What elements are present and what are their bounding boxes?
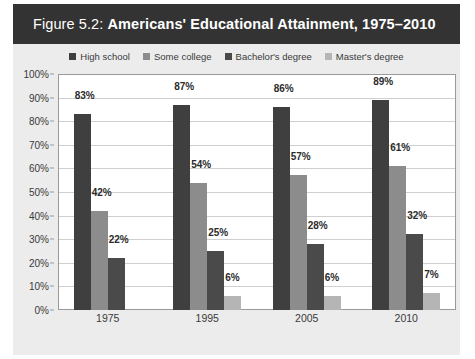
legend-item[interactable]: Bachelor's degree <box>225 51 312 62</box>
bar[interactable] <box>324 296 341 310</box>
y-axis-tick-mark <box>50 168 54 169</box>
figure-title-bar: Figure 5.2: Americans' Educational Attai… <box>13 4 460 44</box>
bar-slot: 54% <box>190 74 207 310</box>
legend-item[interactable]: Some college <box>143 51 212 62</box>
bar[interactable] <box>207 251 224 310</box>
bar-slot: 61% <box>389 74 406 310</box>
bar-group-bars: 86%57%28%6% <box>273 74 341 310</box>
bar-slot: 87% <box>173 74 190 310</box>
legend-label: High school <box>80 51 130 62</box>
legend-item[interactable]: High school <box>69 51 130 62</box>
y-axis-tick-mark <box>50 144 54 145</box>
bar-group-bars: 87%54%25%6% <box>173 74 241 310</box>
bar-groups: 83%42%22%87%54%25%6%86%57%28%6%89%61%32%… <box>58 74 456 310</box>
y-axis-tick-label: 20% <box>29 257 49 268</box>
bar[interactable] <box>273 107 290 310</box>
bar-group: 89%61%32%7% <box>372 74 440 310</box>
y-axis-tick-label: 70% <box>29 139 49 150</box>
x-axis-tick-label: 1975 <box>96 312 119 324</box>
y-axis-tick-mark <box>50 97 54 98</box>
y-axis: 0%10%20%30%40%50%60%70%80%90%100% <box>13 74 54 310</box>
legend-label: Some college <box>154 51 212 62</box>
bar-value-label: 6% <box>225 272 239 284</box>
bar-slot: 57% <box>290 74 307 310</box>
bar[interactable] <box>389 166 406 310</box>
y-axis-tick-label: 10% <box>29 281 49 292</box>
y-axis-tick-label: 80% <box>29 116 49 127</box>
bar-slot: 86% <box>273 74 290 310</box>
legend-swatch-icon <box>69 53 76 60</box>
bar[interactable] <box>290 175 307 310</box>
figure-container: Figure 5.2: Americans' Educational Attai… <box>0 0 475 359</box>
bar-group-bars: 83%42%22% <box>74 74 142 310</box>
bar[interactable] <box>307 244 324 310</box>
bar[interactable] <box>74 114 91 310</box>
bar[interactable] <box>190 183 207 310</box>
figure-title-main: Americans' Educational Attainment, 1975–… <box>108 16 436 32</box>
y-axis-tick-label: 0% <box>35 305 49 316</box>
bar-slot: 22% <box>108 74 125 310</box>
y-axis-tick-label: 50% <box>29 187 49 198</box>
y-axis-tick-label: 100% <box>23 69 49 80</box>
bar[interactable] <box>406 234 423 310</box>
y-axis-tick-mark <box>50 192 54 193</box>
bar[interactable] <box>173 105 190 310</box>
legend-swatch-icon <box>143 53 150 60</box>
legend-label: Bachelor's degree <box>236 51 312 62</box>
bar-group: 83%42%22% <box>74 74 142 310</box>
bar-value-label: 6% <box>325 272 339 284</box>
legend-label: Master's degree <box>336 51 404 62</box>
bar-slot: 7% <box>423 74 440 310</box>
y-axis-tick-mark <box>50 286 54 287</box>
bar-slot: 32% <box>406 74 423 310</box>
bar-slot: 83% <box>74 74 91 310</box>
y-axis-tick-mark <box>50 310 54 311</box>
y-axis-tick-mark <box>50 121 54 122</box>
y-axis-tick-mark <box>50 215 54 216</box>
bar-group: 86%57%28%6% <box>273 74 341 310</box>
legend-swatch-icon <box>325 53 332 60</box>
bar-group-bars: 89%61%32%7% <box>372 74 440 310</box>
y-axis-tick-label: 90% <box>29 92 49 103</box>
bar-slot: 42% <box>91 74 108 310</box>
bar-group: 87%54%25%6% <box>173 74 241 310</box>
bar[interactable] <box>108 258 125 310</box>
bar-slot: 6% <box>324 74 341 310</box>
bar-slot: 25% <box>207 74 224 310</box>
bar[interactable] <box>91 211 108 310</box>
y-axis-tick-mark <box>50 239 54 240</box>
y-axis-tick-mark <box>50 262 54 263</box>
legend-swatch-icon <box>225 53 232 60</box>
bar[interactable] <box>423 293 440 310</box>
chart-legend: High schoolSome collegeBachelor's degree… <box>13 51 460 62</box>
chart-panel: High schoolSome collegeBachelor's degree… <box>13 44 460 355</box>
bar-slot: 89% <box>372 74 389 310</box>
legend-item[interactable]: Master's degree <box>325 51 404 62</box>
figure-title-prefix: Figure 5.2: <box>33 16 108 32</box>
bar-value-label: 7% <box>424 269 438 281</box>
y-axis-tick-label: 40% <box>29 210 49 221</box>
figure-title: Figure 5.2: Americans' Educational Attai… <box>13 16 436 32</box>
x-axis-tick-label: 2005 <box>295 312 318 324</box>
bar-slot: 6% <box>224 74 241 310</box>
x-axis-tick-label: 1995 <box>196 312 219 324</box>
y-axis-tick-label: 60% <box>29 163 49 174</box>
bar[interactable] <box>372 100 389 310</box>
x-axis: 1975199520052010 <box>58 312 456 332</box>
bar-slot <box>125 74 142 310</box>
y-axis-tick-label: 30% <box>29 234 49 245</box>
bar[interactable] <box>224 296 241 310</box>
bar-slot: 28% <box>307 74 324 310</box>
y-axis-tick-mark <box>50 74 54 75</box>
x-axis-tick-label: 2010 <box>395 312 418 324</box>
